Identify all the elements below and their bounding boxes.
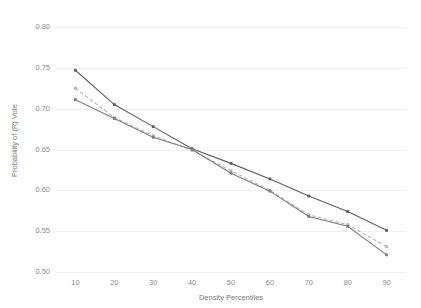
x-tick-label: 70	[294, 278, 324, 287]
x-tick-label: 60	[255, 278, 285, 287]
data-point-marker	[385, 253, 388, 256]
plot-area	[56, 27, 406, 272]
data-point-marker	[74, 87, 77, 90]
data-point-marker	[191, 148, 194, 151]
data-point-marker	[346, 225, 349, 228]
series-line-series-1	[75, 70, 386, 230]
data-point-marker	[268, 178, 271, 181]
data-point-marker	[74, 98, 77, 101]
chart-svg	[56, 27, 406, 272]
y-tick-label: 0.55	[22, 227, 50, 235]
y-tick-label: 0.65	[22, 146, 50, 154]
data-point-marker	[385, 245, 388, 248]
y-tick-label: 0.50	[22, 268, 50, 276]
x-tick-label: 20	[99, 278, 129, 287]
y-tick-label: 0.60	[22, 186, 50, 194]
data-point-marker	[230, 169, 233, 172]
data-point-marker	[268, 190, 271, 193]
data-point-marker	[113, 117, 116, 120]
data-point-marker	[307, 195, 310, 198]
data-point-marker	[230, 172, 233, 175]
clipped-title-text	[0, 0, 300, 3]
data-point-marker	[230, 162, 233, 165]
series-line-series-2	[75, 88, 386, 246]
y-tick-label: 0.75	[22, 64, 50, 72]
x-tick-label: 10	[60, 278, 90, 287]
x-tick-label: 40	[177, 278, 207, 287]
x-tick-label: 30	[138, 278, 168, 287]
chart-figure: 0.800.750.700.650.600.550.50 10203040506…	[0, 0, 421, 308]
data-point-marker	[74, 69, 77, 72]
data-point-marker	[152, 125, 155, 128]
y-tick-label: 0.70	[22, 105, 50, 113]
x-tick-label: 90	[372, 278, 402, 287]
data-point-marker	[152, 136, 155, 139]
x-axis-tick-labels: 102030405060708090	[56, 278, 406, 290]
y-axis-title: Probability of (R) Vote	[10, 81, 19, 201]
data-point-marker	[346, 210, 349, 213]
data-point-marker	[385, 229, 388, 232]
y-axis-tick-labels: 0.800.750.700.650.600.550.50	[22, 27, 50, 272]
x-tick-label: 50	[216, 278, 246, 287]
gridline	[56, 272, 406, 273]
series-line-series-3	[75, 100, 386, 255]
data-point-marker	[307, 215, 310, 218]
x-axis-title: Density Percentiles	[56, 293, 406, 302]
y-tick-label: 0.80	[22, 23, 50, 31]
data-point-marker	[113, 103, 116, 106]
x-tick-label: 80	[333, 278, 363, 287]
